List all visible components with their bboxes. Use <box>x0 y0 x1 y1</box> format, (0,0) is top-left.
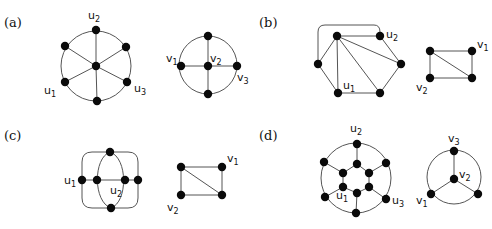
edge <box>96 66 97 101</box>
vertex-r <box>134 176 142 184</box>
left-graph: u1u2 <box>64 148 142 212</box>
vertex-u1o <box>321 193 329 201</box>
vertex-label: u2 <box>88 9 100 24</box>
vertex-bt <box>204 90 212 98</box>
vertex-u1 <box>334 89 342 97</box>
vertex-label: v3 <box>237 71 249 86</box>
graph-figure: (a)u2u1u3v1v2v3(b)u2u1v1v2(c)u1u2v1v2(d)… <box>0 0 492 229</box>
vertex-hlr <box>365 183 373 191</box>
vertex-c <box>92 62 100 70</box>
edge <box>96 47 126 66</box>
edge <box>181 167 222 195</box>
vertex-label: v2 <box>167 201 179 216</box>
vertex-u3 <box>123 78 131 86</box>
right-graph: v1v2 <box>167 152 239 216</box>
vertex-hul <box>339 169 347 177</box>
vertex-v3 <box>450 147 458 155</box>
vertex-or <box>382 159 390 167</box>
vertex-u2 <box>353 140 361 148</box>
vertex-label: v2 <box>416 81 428 96</box>
vertex-tl <box>177 163 185 171</box>
vertex-l <box>314 60 322 68</box>
vertex-label: v3 <box>448 132 460 147</box>
vertex-u2 <box>92 26 100 34</box>
vertex-v2 <box>450 175 458 183</box>
vertex-r <box>397 60 405 68</box>
edge <box>318 36 337 64</box>
edge <box>65 66 96 82</box>
panel-label: (c) <box>4 128 21 143</box>
vertex-t <box>106 148 114 156</box>
panel-a: (a)u2u1u3v1v2v3 <box>4 9 249 105</box>
vertex-b <box>93 97 101 105</box>
vertex-v1 <box>468 47 476 55</box>
vertex-label: u1 <box>44 84 56 99</box>
vertex-label: u1 <box>336 189 348 204</box>
vertex-label: v1 <box>227 152 239 167</box>
vertex-ur <box>122 43 130 51</box>
vertex-label: u2 <box>386 28 398 43</box>
edge <box>380 64 401 93</box>
vertex-v1 <box>427 190 435 198</box>
left-graph: u2u1u3 <box>44 9 146 105</box>
vertex-v1 <box>177 62 185 70</box>
vertex-label: v1 <box>166 52 178 67</box>
vertex-label: u1 <box>64 174 76 189</box>
vertex-label: u3 <box>392 194 404 209</box>
vertex-label: u3 <box>134 82 146 97</box>
vertex-br <box>218 191 226 199</box>
cycle-edge <box>321 143 391 213</box>
vertex-r <box>474 190 482 198</box>
vertex-tl <box>426 47 434 55</box>
vertex-tl <box>333 32 341 40</box>
right-graph: v1v2 <box>416 38 489 96</box>
vertex-u3 <box>382 195 390 203</box>
edge <box>96 66 127 82</box>
vertex-ol <box>320 158 328 166</box>
vertex-t <box>204 32 212 40</box>
vertex-label: v2 <box>210 52 222 67</box>
right-graph: v1v2v3 <box>166 32 249 98</box>
vertex-ob <box>352 209 360 217</box>
vertex-label: v1 <box>416 194 428 209</box>
panel-label: (a) <box>4 15 22 30</box>
right-graph: v3v2v1 <box>416 132 482 209</box>
left-graph: u2u1u3 <box>320 122 404 217</box>
vertex-u2 <box>376 32 384 40</box>
vertex-il <box>93 176 101 184</box>
curved-edge <box>318 25 380 64</box>
vertex-u2 <box>121 176 129 184</box>
left-graph: u2u1 <box>314 25 405 97</box>
vertex-ht <box>353 160 361 168</box>
panel-label: (b) <box>259 15 277 30</box>
vertex-label: u1 <box>343 79 355 94</box>
vertex-v1 <box>218 163 226 171</box>
vertex-br <box>468 74 476 82</box>
vertex-v3 <box>233 62 241 70</box>
panel-d: (d)u2u1u3v3v2v1 <box>259 122 482 217</box>
edge <box>318 64 338 93</box>
vertex-v2 <box>177 191 185 199</box>
vertex-u1 <box>78 176 86 184</box>
vertex-br <box>376 89 384 97</box>
vertex-u1 <box>61 78 69 86</box>
panel-c: (c)u1u2v1v2 <box>4 128 239 216</box>
vertex-label: v2 <box>459 168 471 183</box>
vertex-ul <box>61 42 69 50</box>
vertex-hb <box>353 189 361 197</box>
vertex-hur <box>365 169 373 177</box>
panel-b: (b)u2u1v1v2 <box>259 15 489 97</box>
panel-label: (d) <box>259 128 277 143</box>
vertex-v2 <box>426 74 434 82</box>
vertex-label: u2 <box>110 184 122 199</box>
vertex-label: v1 <box>477 38 489 53</box>
edge <box>65 46 96 66</box>
edge <box>430 51 472 78</box>
edge <box>337 36 338 93</box>
vertex-label: u2 <box>350 122 362 137</box>
vertex-b <box>107 204 115 212</box>
